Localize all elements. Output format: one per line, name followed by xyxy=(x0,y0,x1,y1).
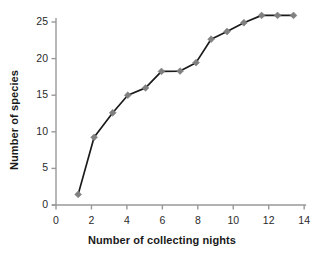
x-axis-title: Number of collecting nights xyxy=(0,234,324,246)
data-line-series xyxy=(78,15,293,194)
y-axis-title: Number of species xyxy=(8,40,20,200)
x-tick-label: 4 xyxy=(115,214,139,226)
y-tick-label: 0 xyxy=(24,198,48,210)
x-tick-label: 8 xyxy=(186,214,210,226)
y-tick-label: 15 xyxy=(24,88,48,100)
species-accumulation-chart: Number of collecting nights Number of sp… xyxy=(0,0,324,260)
data-point-marker xyxy=(177,68,184,75)
x-tick-label: 2 xyxy=(79,214,103,226)
x-tick-label: 10 xyxy=(221,214,245,226)
x-tick-label: 12 xyxy=(257,214,281,226)
data-point-marker xyxy=(224,28,231,35)
data-point-marker xyxy=(75,191,82,198)
y-tick-label: 25 xyxy=(24,15,48,27)
y-tick-label: 10 xyxy=(24,125,48,137)
x-tick-label: 14 xyxy=(292,214,316,226)
data-point-marker xyxy=(258,12,265,19)
data-point-marker xyxy=(240,19,247,26)
y-tick-label: 20 xyxy=(24,52,48,64)
data-point-marker xyxy=(274,12,281,19)
x-tick-label: 0 xyxy=(44,214,68,226)
y-tick-label: 5 xyxy=(24,161,48,173)
data-point-marker xyxy=(290,12,297,19)
x-tick-label: 6 xyxy=(150,214,174,226)
